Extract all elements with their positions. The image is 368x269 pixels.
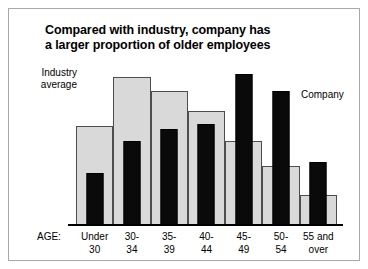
bar-company [310,162,327,226]
bar-group [76,69,113,226]
category-label: Under 30 [76,231,113,256]
category-label: 50- 54 [262,231,299,256]
bar-group [225,69,262,226]
category-label: 30- 34 [113,231,150,256]
chart-figure: Compared with industry, company has a la… [8,8,360,261]
bar-company [198,124,215,226]
bar-group [262,69,299,226]
axis-prefix-label: AGE: [37,231,61,242]
title-line-2: a larger proportion of older employees [45,38,335,53]
plot-area [76,61,337,226]
bar-groups [76,69,337,226]
bar-group [300,69,337,226]
bar-company [273,91,290,226]
page-title: Compared with industry, company has a la… [45,23,335,53]
category-label: 40- 44 [188,231,225,256]
category-label: 55 and over [300,231,337,256]
bar-group [113,69,150,226]
bar-group [188,69,225,226]
category-label: 45- 49 [225,231,262,256]
x-axis-line [68,224,343,226]
bar-company [235,74,252,226]
category-label: 35- 39 [151,231,188,256]
series-label-industry-average: Industry average [31,67,77,91]
bar-group [151,69,188,226]
category-labels: Under 3030- 3435- 3940- 4445- 4950- 5455… [76,231,337,256]
bar-company [123,141,140,226]
bar-company [161,129,178,226]
title-line-1: Compared with industry, company has [45,23,335,38]
bar-company [86,173,103,226]
